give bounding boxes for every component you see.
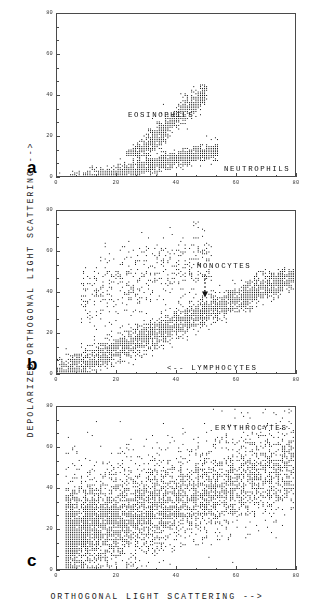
panel-c-x-tick — [96, 568, 97, 571]
x-axis-title: ORTHOGONAL LIGHT SCATTERING --> — [0, 592, 314, 601]
panel-a-plot-frame — [56, 13, 296, 177]
panel-a-y-tick — [56, 40, 59, 41]
panel-a-x-tick-label: 40 — [173, 180, 180, 186]
panel-a-x-tick — [216, 175, 217, 178]
panel-c-y-tick-label: 60 — [43, 444, 53, 450]
panel-b-x-tick — [136, 372, 137, 375]
panel-c-y-tick-label: 20 — [43, 526, 53, 532]
panel-a-x-tick — [136, 175, 137, 178]
panel-b-y-tick — [56, 237, 59, 238]
panel-a-x-tick — [156, 175, 157, 178]
panel-c-x-tick-label: 0 — [54, 573, 57, 579]
panel-a-y-tick-label: 80 — [43, 10, 53, 16]
panel-a-y-tick — [56, 27, 59, 28]
panel-c-y-tick-label: 40 — [43, 485, 53, 491]
panel-c-x-tick — [156, 568, 157, 571]
panel-a-y-tick-label: 40 — [43, 92, 53, 98]
panel-a-y-tick — [56, 122, 59, 123]
panel-a-x-tick — [236, 173, 237, 177]
panel-c-y-tick — [56, 570, 60, 571]
panel-a — [56, 13, 296, 177]
panel-b-scatter-canvas — [57, 211, 295, 373]
monocytes-pointer-arrow-icon — [199, 274, 211, 298]
panel-a-x-tick — [96, 175, 97, 178]
panel-c-x-tick — [216, 568, 217, 571]
panel-c-x-tick-label: 20 — [113, 573, 120, 579]
panel-b-y-tick-label: 80 — [43, 207, 53, 213]
panel-b — [56, 210, 296, 374]
panel-b-x-tick-label: 60 — [233, 377, 240, 383]
panel-a-y-tick — [56, 68, 59, 69]
panel-a-x-tick — [196, 175, 197, 178]
panel-c-y-tick — [56, 447, 60, 448]
panel-c-x-tick — [136, 568, 137, 571]
panel-c-x-tick — [176, 566, 177, 570]
panel-c-x-tick-label: 80 — [293, 573, 300, 579]
panel-b-y-tick — [56, 319, 59, 320]
panel-c-y-tick — [56, 502, 59, 503]
panel-a-y-tick — [56, 54, 60, 55]
panel-a-y-tick — [56, 150, 59, 151]
panel-c-x-tick — [196, 568, 197, 571]
panel-c-x-tick — [236, 566, 237, 570]
panel-b-y-tick — [56, 224, 59, 225]
panel-b-y-tick — [56, 347, 59, 348]
panel-b-x-tick — [96, 372, 97, 375]
panel-a-y-tick — [56, 13, 60, 14]
panel-a-x-tick — [256, 175, 257, 178]
annotation-monocytes: MONOCYTES — [197, 262, 251, 270]
panel-a-y-tick-label: 20 — [43, 133, 53, 139]
panel-c-y-tick — [56, 406, 60, 407]
panel-a-x-tick — [116, 173, 117, 177]
panel-b-y-tick — [56, 374, 60, 375]
panel-a-y-tick — [56, 109, 59, 110]
panel-c-y-tick-label: 0 — [43, 567, 53, 573]
panel-a-y-tick — [56, 163, 59, 164]
annotation-neutrophils: NEUTROPHILS — [224, 165, 290, 173]
panel-c-y-tick — [56, 433, 59, 434]
panel-b-x-tick — [156, 372, 157, 375]
panel-a-x-tick — [176, 173, 177, 177]
annotation-lymphocytes: <-- LYMPHOCYTES — [167, 364, 258, 372]
panel-b-y-tick — [56, 292, 60, 293]
panel-c-x-tick — [276, 568, 277, 571]
panel-b-x-tick — [116, 370, 117, 374]
panel-a-y-tick — [56, 177, 60, 178]
panel-a-y-tick — [56, 136, 60, 137]
panel-b-y-tick — [56, 360, 59, 361]
panel-b-y-tick — [56, 251, 60, 252]
panel-c-x-tick — [256, 568, 257, 571]
panel-b-x-tick — [276, 372, 277, 375]
panel-a-x-tick-label: 20 — [113, 180, 120, 186]
annotation-erythrocytes: ERYTHROCYTES — [215, 424, 287, 432]
panel-a-y-tick — [56, 95, 60, 96]
annotation-eosinophils: EOSINOPHILS — [128, 111, 194, 119]
panel-b-y-tick — [56, 265, 59, 266]
panel-b-y-tick — [56, 306, 59, 307]
panel-c-y-tick — [56, 461, 59, 462]
panel-c-y-tick — [56, 529, 60, 530]
panel-c-y-tick — [56, 420, 59, 421]
panel-a-y-tick-label: 60 — [43, 51, 53, 57]
panel-a-y-tick-label: 0 — [43, 174, 53, 180]
panel-a-x-tick — [276, 175, 277, 178]
panel-a-x-tick-label: 60 — [233, 180, 240, 186]
panel-b-y-tick — [56, 278, 59, 279]
panel-c-letter: c — [27, 552, 36, 569]
panel-b-y-tick-label: 0 — [43, 371, 53, 377]
panel-a-x-tick — [296, 173, 297, 177]
panel-b-x-tick — [196, 372, 197, 375]
panel-b-y-tick-label: 60 — [43, 248, 53, 254]
panel-b-x-tick-label: 20 — [113, 377, 120, 383]
panel-b-x-tick-label: 40 — [173, 377, 180, 383]
panel-a-x-tick-label: 0 — [54, 180, 57, 186]
panel-b-x-tick-label: 80 — [293, 377, 300, 383]
figure-root: DEPOLARIZED ORTHOGONAL LIGHT SCATTERING … — [0, 0, 314, 613]
panel-b-y-tick-label: 40 — [43, 289, 53, 295]
panel-c-y-tick — [56, 556, 59, 557]
panel-b-x-tick-label: 0 — [54, 377, 57, 383]
panel-c-y-tick — [56, 543, 59, 544]
panel-b-x-tick — [296, 370, 297, 374]
panel-a-scatter-canvas — [57, 14, 295, 176]
panel-c-y-tick — [56, 474, 59, 475]
